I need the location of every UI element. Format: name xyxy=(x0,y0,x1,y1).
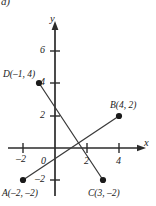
point-label-B: B(4, 2) xyxy=(110,101,136,111)
point-B xyxy=(116,113,122,119)
x-tick-label--2: –2 xyxy=(16,154,26,164)
coordinate-plane-figure: a) y x –2 0 2 4 6 4 2 –2 D(–1, 4) xyxy=(0,0,156,206)
x-tick-label-2: 2 xyxy=(84,156,89,166)
y-tick-label--2: –2 xyxy=(35,174,45,184)
point-label-C: C(3, –2) xyxy=(88,189,120,199)
x-tick-label-4: 4 xyxy=(116,156,121,166)
y-tick-label-2: 2 xyxy=(40,110,45,120)
x-axis-label: x xyxy=(144,138,149,149)
y-axis-label: y xyxy=(50,14,55,25)
point-C xyxy=(100,177,106,183)
y-tick-label-4: 4 xyxy=(40,77,45,87)
segment-DC xyxy=(39,83,103,180)
point-A xyxy=(20,177,26,183)
point-label-D: D(–1, 4) xyxy=(3,70,35,80)
x-tick-label-0: 0 xyxy=(41,156,46,166)
point-label-A: A(–2, –2) xyxy=(2,189,38,199)
y-tick-label-6: 6 xyxy=(40,45,45,55)
